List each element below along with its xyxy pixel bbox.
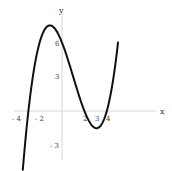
y-tick-label: 3 (55, 73, 59, 81)
y-axis-title: y (58, 6, 64, 15)
y-tick-label: 6 (55, 40, 60, 48)
x-axis-title: x (160, 107, 165, 116)
cubic-function-chart: x y - 4 - 2 2 3 4 6 3 - 3 (0, 0, 172, 171)
y-tick-label: - 3 (50, 142, 59, 150)
x-tick-label: 4 (106, 115, 111, 123)
x-tick-label: 3 (95, 115, 99, 123)
x-tick-label: - 4 (12, 115, 22, 123)
x-tick-label: - 2 (35, 115, 44, 123)
function-curve (23, 25, 118, 169)
